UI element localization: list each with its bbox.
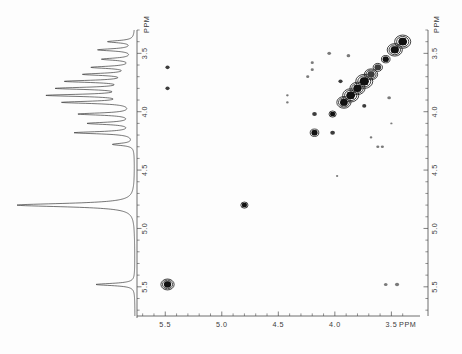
cross-peak [390, 122, 392, 124]
bottom-axis-tick-label: 3.5 [385, 320, 397, 329]
diagonal-peak [373, 63, 382, 71]
bottom-axis-tick-label: 4.0 [329, 320, 341, 329]
cross-peak [338, 80, 342, 84]
left-axis-tick-label: 4.5 [140, 164, 149, 176]
cross-peak [376, 145, 379, 148]
cross-peak [330, 131, 335, 135]
cross-peak [165, 87, 169, 91]
cross-peak [370, 136, 373, 138]
cross-peak [384, 283, 388, 286]
cross-peak [347, 54, 351, 57]
bottom-axis-tick-label: 5.0 [216, 320, 228, 329]
right-axis-tick-label: 4.0 [430, 106, 439, 118]
diagonal-peak [310, 129, 319, 136]
contour-peaks-layer [161, 35, 411, 290]
bottom-axis-tick-label: 4.5 [272, 320, 284, 329]
right-axis-tick-label: 5.5 [430, 281, 439, 293]
right-axis-tick-label: 5.0 [430, 223, 439, 235]
cross-peak [311, 68, 314, 71]
diagonal-peak [329, 111, 336, 117]
left-vertical-axis: 3.54.04.55.05.5 [137, 30, 149, 318]
cross-peak [312, 112, 317, 116]
f1-projection-trace [17, 30, 135, 316]
diagonal-peak [241, 202, 248, 208]
cross-peak [327, 52, 331, 55]
bottom-horizontal-axis: 5.55.04.54.03.5 [137, 312, 420, 330]
cross-peak [336, 175, 338, 177]
cross-peak [286, 94, 289, 96]
left-axis-tick-label: 3.5 [140, 47, 149, 59]
cross-peak [286, 101, 289, 103]
cross-peak [395, 283, 399, 287]
left-axis-tick-label: 5.5 [140, 281, 149, 293]
cross-peak [165, 66, 169, 70]
right-axis-tick-label: 3.5 [430, 47, 439, 59]
diagonal-peak [161, 279, 174, 290]
cross-peak [311, 61, 314, 64]
right-vertical-axis: 3.54.04.55.05.5 [424, 30, 440, 316]
nmr-spectrum-figure: 3.54.04.55.05.5 3.54.04.55.05.5 5.55.04.… [0, 0, 462, 354]
spectrum-canvas: 3.54.04.55.05.5 3.54.04.55.05.5 5.55.04.… [0, 0, 462, 354]
projection-polyline [17, 30, 135, 316]
left-axis-tick-label: 5.0 [140, 223, 149, 235]
diagonal-peak [364, 69, 377, 80]
cross-peak [306, 75, 309, 78]
right-axis-tick-label: 4.5 [430, 164, 439, 176]
cross-peak [381, 145, 384, 148]
cross-peak [362, 104, 366, 108]
diagonal-peak [381, 56, 390, 63]
diagonal-peak [387, 44, 402, 56]
cross-peak [387, 96, 391, 99]
bottom-axis-tick-label: 5.5 [159, 320, 171, 329]
diagonal-peak [395, 35, 411, 48]
left-axis-tick-label: 4.0 [140, 106, 149, 118]
